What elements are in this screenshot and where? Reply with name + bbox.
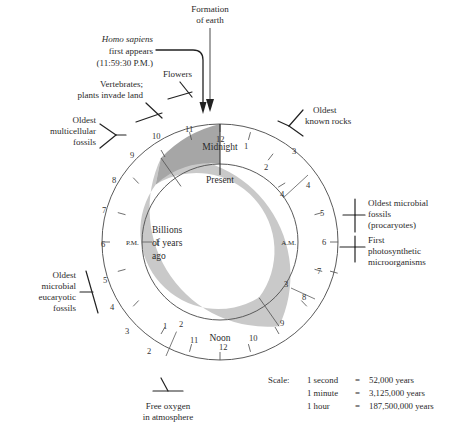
known-rocks-line1: Oldest <box>313 105 337 115</box>
scale-row-0-value: 52,000 years <box>369 375 415 385</box>
hour-number-1-pm: 1 <box>163 321 167 331</box>
vertebrates-line1: Vertebrates; <box>100 79 143 89</box>
microbial-fossils-line1: Oldest microbial <box>368 198 429 208</box>
scale-row-1-value: 3,125,000 years <box>369 388 426 398</box>
eucaryotic-line4: fossils <box>53 303 77 313</box>
am-label: A.M. <box>281 239 296 247</box>
center-axis-line1: Billions <box>152 225 182 235</box>
flowers-bracket <box>168 82 192 99</box>
scale-row-2-eq: = <box>355 401 360 411</box>
hour-number-10-pm: 10 <box>152 131 161 141</box>
hour-number-1: 1 <box>244 141 248 151</box>
scale-row-2-unit: 1 hour <box>307 401 330 411</box>
free-oxygen-line2: in atmosphere <box>143 412 194 422</box>
scale-row-2-value: 187,500,000 years <box>369 401 434 411</box>
scale-row-0-eq: = <box>355 375 360 385</box>
hour-number-11: 11 <box>190 335 198 345</box>
photosynthetic-line2: photosynthetic <box>368 246 421 256</box>
hour-number-12-noon: 12 <box>219 342 228 352</box>
vertebrates-bracket <box>136 103 162 122</box>
formation-of-earth-line2: of earth <box>196 15 224 25</box>
scale-row-0-unit: 1 second <box>307 375 339 385</box>
hour-number-5-pm: 5 <box>103 275 107 285</box>
eucaryotic-line3: eucaryotic <box>39 292 76 302</box>
photosynthetic-line1: First <box>368 235 385 245</box>
multicellular-line1: Oldest <box>73 115 97 125</box>
microbial-fossils-line3: (procaryotes) <box>368 220 416 230</box>
formation-of-earth-line1: Formation <box>191 4 229 14</box>
flowers-annotation: Flowers <box>163 69 192 99</box>
hour-number-11-pm: 11 <box>185 124 193 134</box>
eucaryotic-line1: Oldest <box>53 270 77 280</box>
flowers-label: Flowers <box>163 69 192 79</box>
hour-number-10: 10 <box>249 333 258 343</box>
hour-number-6-am: 6 <box>322 237 326 247</box>
noon-label: Noon <box>209 333 230 343</box>
hour-number-8: 8 <box>302 292 306 302</box>
hour-number-2: 2 <box>264 162 268 172</box>
known-rocks-line2: known rocks <box>305 116 352 126</box>
first-photosynthetic-annotation: First photosynthetic microorganisms <box>340 235 426 267</box>
eucaryotic-bracket <box>80 271 98 313</box>
oldest-microbial-eucaryotic-annotation: Oldest microbial eucaryotic fossils <box>39 270 98 313</box>
homo-sapiens-line1: Homo sapiens <box>101 34 154 44</box>
multicellular-line2: multicellular <box>50 126 96 136</box>
hour-number-4-pm: 4 <box>110 302 115 312</box>
scale-row-1-eq: = <box>355 388 360 398</box>
center-axis-line3: ago <box>152 251 166 261</box>
present-label: Present <box>206 175 234 185</box>
hour-number-7: 7 <box>317 266 321 276</box>
scale-legend: Scale: 1 second = 52,000 years 1 minute … <box>268 375 434 411</box>
homo-sapiens-line2: first appears <box>109 46 154 56</box>
hour-number-6-pm: 6 <box>101 239 105 249</box>
photosynthetic-line3: microorganisms <box>368 257 426 267</box>
free-oxygen-annotation: Free oxygen in atmosphere <box>143 378 194 422</box>
homo-sapiens-line3: (11:59:30 P.M.) <box>97 58 153 68</box>
hour-number-3-pm: 3 <box>125 326 129 336</box>
scale-label: Scale: <box>268 375 290 385</box>
microbial-fossils-bracket <box>343 199 365 232</box>
hour-number-9-pm: 9 <box>130 150 134 160</box>
oldest-microbial-fossils-annotation: Oldest microbial fossils (procaryotes) <box>343 198 429 232</box>
oldest-multicellular-annotation: Oldest multicellular fossils <box>50 115 126 148</box>
pm-label: P.M. <box>126 239 139 247</box>
known-rocks-bracket <box>278 110 303 136</box>
eucaryotic-line2: microbial <box>42 281 77 291</box>
homo-sapiens-arrow-head <box>200 102 207 114</box>
geologic-clock-figure: 12 1 2 3 4 5 6 7 8 9 10 12 11 1 2 3 4 5 … <box>0 0 463 431</box>
hour-number-8-pm: 8 <box>112 175 116 185</box>
oldest-known-rocks-annotation: Oldest known rocks <box>278 105 352 136</box>
hour-number-9: 9 <box>280 318 284 328</box>
center-axis-line2: of years <box>152 238 183 248</box>
vertebrates-line2: plants invade land <box>78 90 144 100</box>
formation-arrow-head <box>206 99 214 112</box>
photosynthetic-bracket <box>340 236 365 262</box>
byr-number-3: 3 <box>284 279 288 289</box>
hour-number-7-pm: 7 <box>102 205 106 215</box>
hour-number-5: 5 <box>320 208 324 218</box>
free-oxygen-bracket <box>153 378 183 391</box>
free-oxygen-line1: Free oxygen <box>146 401 191 411</box>
hour-number-3-inner: 3 <box>292 146 296 156</box>
formation-of-earth-annotation: Formation of earth <box>191 4 229 112</box>
multicellular-line3: fossils <box>73 137 97 147</box>
scale-row-1-unit: 1 minute <box>307 388 338 398</box>
microbial-fossils-line2: fossils <box>368 209 392 219</box>
hour-number-2-pm: 2 <box>147 346 151 356</box>
multicellular-bracket <box>100 124 126 148</box>
byr-number-2: 2 <box>179 319 183 329</box>
